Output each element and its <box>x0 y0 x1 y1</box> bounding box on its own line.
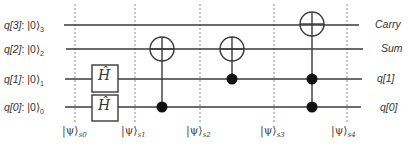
output-label-sum: Sum <box>381 42 403 54</box>
initial-ket: : |0⟩ <box>22 101 40 113</box>
output-label-carry: Carry <box>375 18 401 30</box>
cnot-gate-1 <box>150 37 174 113</box>
qubit-label-q1: q[1]: |0⟩1 <box>4 73 44 90</box>
control-dot-icon <box>307 74 318 85</box>
control-dot-icon <box>227 74 238 85</box>
control-dot-icon <box>157 102 168 113</box>
initial-ket: : |0⟩ <box>22 73 40 85</box>
toffoli-gate <box>300 12 324 113</box>
register-name: q[0] <box>4 101 22 113</box>
cnot-gate-2 <box>220 37 244 85</box>
state-label-s1: |ψ⟩s1 <box>121 124 146 139</box>
qubit-label-q2: q[2]: |0⟩2 <box>4 43 44 60</box>
state-label-s3: |ψ⟩s3 <box>260 124 285 139</box>
state-label-s0: |ψ⟩s0 <box>62 124 87 139</box>
output-label-q0: q[0] <box>380 101 398 113</box>
initial-ket: : |0⟩ <box>22 43 40 55</box>
qubit-label-q0: q[0]: |0⟩0 <box>4 101 44 118</box>
register-name: q[3] <box>4 19 22 31</box>
initial-ket: : |0⟩ <box>22 19 40 31</box>
state-label-s2: |ψ⟩s2 <box>186 124 211 139</box>
control-dot-icon <box>307 102 318 113</box>
hadamard-label-q0: Ĥ <box>98 99 110 111</box>
state-label-s4: |ψ⟩s4 <box>331 124 356 139</box>
hadamard-label-q1: Ĥ <box>98 69 110 81</box>
register-name: q[1] <box>4 73 22 85</box>
qubit-label-q3: q[3]: |0⟩3 <box>4 19 44 36</box>
register-name: q[2] <box>4 43 22 55</box>
output-label-q1: q[1] <box>377 72 395 84</box>
